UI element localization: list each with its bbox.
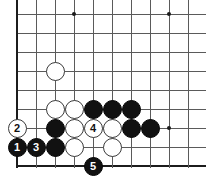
grid-line-vertical (93, 0, 94, 168)
go-board-diagram: 24135 (0, 0, 209, 182)
stone-black (122, 100, 141, 119)
stone-white (65, 138, 84, 157)
move-stone-1: 1 (8, 138, 27, 157)
stone-white (103, 138, 122, 157)
stone-white (65, 119, 84, 138)
stone-black (141, 119, 160, 138)
star-point (167, 126, 171, 130)
stone-black (46, 119, 65, 138)
move-stone-4: 4 (84, 119, 103, 138)
stone-black (46, 138, 65, 157)
stone-black (84, 100, 103, 119)
move-number-label: 2 (9, 120, 26, 137)
move-number-label: 1 (9, 139, 26, 156)
stone-white (65, 100, 84, 119)
goban-grid: 24135 (0, 0, 209, 182)
grid-line-vertical (131, 0, 132, 168)
grid-line-vertical (188, 0, 189, 168)
star-point (72, 12, 76, 16)
move-stone-5: 5 (84, 157, 103, 176)
move-stone-2: 2 (8, 119, 27, 138)
move-number-label: 4 (85, 120, 102, 137)
star-point (167, 12, 171, 16)
grid-line-vertical (169, 0, 170, 168)
stone-white (46, 100, 65, 119)
move-stone-3: 3 (27, 138, 46, 157)
stone-white (46, 62, 65, 81)
move-number-label: 3 (28, 139, 45, 156)
stone-black (122, 119, 141, 138)
grid-line-vertical (150, 0, 151, 168)
move-number-label: 5 (85, 158, 102, 175)
stone-white (103, 119, 122, 138)
stone-black (103, 100, 122, 119)
